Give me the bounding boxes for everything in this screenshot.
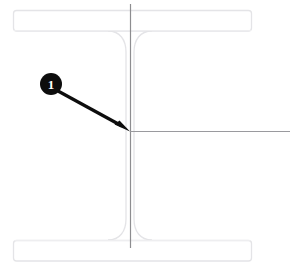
- callout-leader-line: [58, 91, 122, 126]
- top-flange-shape: [14, 11, 252, 32]
- figure-root: 1: [0, 0, 298, 271]
- callout-number-label: 1: [48, 77, 55, 92]
- callout-marker-1[interactable]: 1: [40, 73, 62, 95]
- web-right-wall: [134, 31, 152, 240]
- web-left-wall: [108, 31, 126, 240]
- bottom-flange-shape: [14, 241, 252, 262]
- ibeam-cross-section-drawing: 1: [0, 0, 298, 271]
- beam-outline-group: [14, 11, 252, 262]
